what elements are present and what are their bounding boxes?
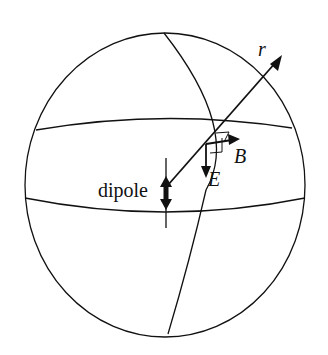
r-label: r bbox=[258, 38, 266, 60]
dipole-sphere-diagram: r B E dipole bbox=[0, 0, 328, 355]
e-label: E bbox=[207, 168, 220, 190]
r-arrowhead-icon bbox=[270, 55, 282, 71]
b-arrowhead-icon bbox=[228, 134, 240, 145]
b-label: B bbox=[234, 145, 246, 167]
b-vector bbox=[206, 140, 232, 144]
dipole-body bbox=[164, 186, 169, 200]
dipole-label: dipole bbox=[98, 179, 148, 202]
dipole-down-arrow-icon bbox=[160, 199, 172, 210]
upper-latitude-line bbox=[36, 118, 292, 130]
